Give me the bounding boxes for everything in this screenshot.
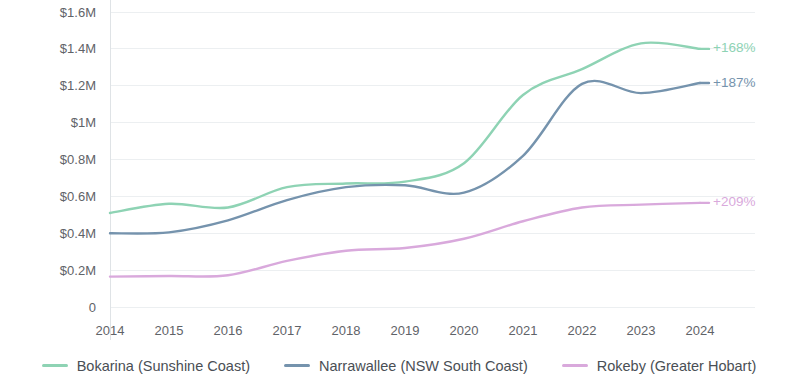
series-line-0 [110, 43, 700, 213]
legend-item[interactable]: Rokeby (Greater Hobart) [562, 358, 757, 374]
x-axis-tick-label: 2023 [627, 323, 656, 338]
series-line-1 [110, 81, 700, 234]
chart-plot-area: 0$0.2M$0.4M$0.6M$0.8M$1M$1.2M$1.4M$1.6M2… [0, 0, 798, 379]
series-end-label-2: +209% [713, 194, 755, 209]
y-axis-tick-label: $0.6M [60, 189, 96, 204]
x-axis-tick-label: 2016 [214, 323, 243, 338]
x-axis-tick-label: 2021 [509, 323, 538, 338]
legend-swatch-icon [42, 364, 68, 367]
legend-item[interactable]: Bokarina (Sunshine Coast) [42, 358, 250, 374]
line-chart: 0$0.2M$0.4M$0.6M$0.8M$1M$1.2M$1.4M$1.6M2… [0, 0, 798, 379]
legend-swatch-icon [284, 364, 310, 367]
series-end-label-1: +187% [713, 75, 755, 90]
x-axis-tick-label: 2019 [391, 323, 420, 338]
x-axis-tick-label: 2018 [332, 323, 361, 338]
y-axis-tick-label: 0 [89, 300, 96, 315]
x-axis-tick-label: 2024 [686, 323, 715, 338]
y-axis-tick-label: $0.4M [60, 226, 96, 241]
y-axis-tick-label: $1.6M [60, 5, 96, 20]
y-axis-tick-label: $0.2M [60, 263, 96, 278]
legend-item[interactable]: Narrawallee (NSW South Coast) [284, 358, 528, 374]
y-axis-tick-label: $1M [71, 115, 96, 130]
x-axis-tick-label: 2020 [450, 323, 479, 338]
y-axis-tick-label: $0.8M [60, 152, 96, 167]
legend-item-label: Rokeby (Greater Hobart) [597, 358, 757, 374]
x-axis-tick-label: 2022 [568, 323, 597, 338]
y-axis-tick-label: $1.2M [60, 78, 96, 93]
legend-swatch-icon [562, 364, 588, 367]
series-line-2 [110, 203, 700, 277]
legend-item-label: Narrawallee (NSW South Coast) [319, 358, 528, 374]
series-end-label-0: +168% [713, 40, 755, 55]
x-axis-tick-label: 2017 [273, 323, 302, 338]
x-axis-tick-label: 2014 [96, 323, 125, 338]
chart-legend: Bokarina (Sunshine Coast)Narrawallee (NS… [0, 352, 798, 379]
x-axis-tick-label: 2015 [155, 323, 184, 338]
y-axis-tick-label: $1.4M [60, 41, 96, 56]
legend-item-label: Bokarina (Sunshine Coast) [77, 358, 250, 374]
